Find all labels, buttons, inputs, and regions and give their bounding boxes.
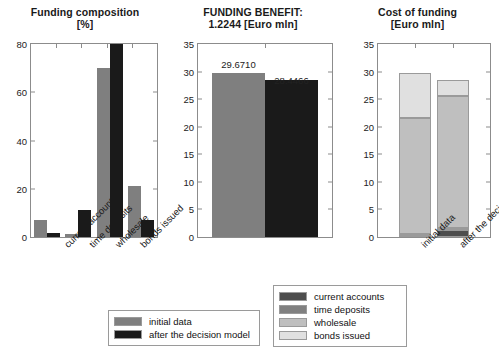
- bar-value-label: 28.4466: [274, 75, 308, 86]
- stack-segment-bonds-issued: [437, 80, 469, 96]
- chart-funding-benefit: FUNDING BENEFIT: 1.2244 [Euro mln] 05101…: [168, 0, 338, 300]
- chart3-title-block: Cost of funding [Euro mln]: [336, 6, 499, 30]
- chart1-title: Funding composition: [0, 6, 170, 18]
- y-tick-mark: [153, 92, 157, 93]
- legend-component-item-label: current accounts: [314, 291, 384, 302]
- y-tick-mark: [198, 126, 202, 127]
- chart1-title-block: Funding composition [%]: [0, 6, 170, 30]
- x-axis-label: current accounts: [62, 242, 70, 250]
- chart2-title-block: FUNDING BENEFIT: 1.2244 [Euro mln]: [168, 6, 338, 30]
- bar-value-label: 29.6710: [221, 59, 255, 70]
- y-tick-label: 80: [16, 39, 31, 50]
- chart2-subtitle: 1.2244 [Euro mln]: [168, 18, 338, 30]
- chart3-title: Cost of funding: [336, 6, 499, 18]
- y-tick-mark: [378, 99, 382, 100]
- y-tick-label: 10: [183, 176, 198, 187]
- x-tick-mark: [265, 44, 266, 48]
- y-tick-mark: [198, 181, 202, 182]
- y-tick-mark: [378, 154, 382, 155]
- y-tick-mark: [328, 209, 332, 210]
- y-tick-label: 15: [363, 149, 378, 160]
- y-tick-label: 60: [16, 87, 31, 98]
- chart2-plot-area: 0510152025303529.671028.4466: [197, 43, 333, 238]
- bar-after-decision-model: [265, 80, 318, 237]
- y-tick-mark: [378, 209, 382, 210]
- legend-component-item-swatch: [279, 318, 307, 327]
- y-tick-mark: [378, 71, 382, 72]
- legend-component-item-label: bonds issued: [314, 330, 370, 341]
- x-tick-mark: [132, 44, 133, 48]
- y-tick-label: 5: [189, 204, 198, 215]
- y-tick-mark: [486, 181, 490, 182]
- y-tick-mark: [153, 188, 157, 189]
- stack-segment-wholesale: [437, 96, 469, 228]
- y-tick-mark: [198, 209, 202, 210]
- legend-component-item-row: time deposits: [279, 303, 400, 316]
- y-tick-mark: [328, 154, 332, 155]
- y-tick-label: 25: [363, 94, 378, 105]
- y-tick-label: 15: [183, 149, 198, 160]
- legend-series: initial dataafter the decision model: [108, 310, 260, 346]
- y-tick-label: 0: [22, 232, 31, 243]
- legend-series-item-swatch: [114, 317, 142, 326]
- y-tick-label: 30: [183, 66, 198, 77]
- x-tick-mark: [81, 44, 82, 48]
- y-tick-label: 25: [183, 94, 198, 105]
- y-tick-mark: [328, 181, 332, 182]
- x-tick-mark: [56, 44, 57, 48]
- x-axis-label: time deposits: [87, 242, 95, 250]
- y-tick-mark: [31, 140, 35, 141]
- y-tick-label: 0: [369, 232, 378, 243]
- y-tick-mark: [486, 126, 490, 127]
- chart3-plot-area: 05101520253035initial dataafter the deci…: [377, 43, 491, 238]
- y-tick-label: 35: [183, 39, 198, 50]
- bar-current-accounts-initial: [34, 220, 47, 237]
- x-tick-mark: [453, 44, 454, 48]
- y-tick-mark: [31, 188, 35, 189]
- chart-funding-composition: Funding composition [%] 020406080current…: [0, 0, 170, 300]
- y-tick-label: 20: [16, 183, 31, 194]
- x-axis-label: wholesale: [113, 242, 121, 250]
- legend-series-item-label: initial data: [149, 316, 192, 327]
- x-axis-label: after the decision model: [457, 242, 465, 250]
- bar-initial-data: [212, 73, 265, 237]
- legend-component-item-swatch: [279, 305, 307, 314]
- legend-component-item-swatch: [279, 292, 307, 301]
- y-tick-mark: [198, 99, 202, 100]
- x-axis-label: bonds issued: [138, 242, 146, 250]
- y-tick-mark: [378, 181, 382, 182]
- legend-component-item-row: current accounts: [279, 290, 400, 303]
- y-tick-label: 30: [363, 66, 378, 77]
- legend-series-item-swatch: [114, 330, 142, 339]
- y-tick-label: 10: [363, 176, 378, 187]
- y-tick-mark: [328, 71, 332, 72]
- y-tick-label: 0: [189, 232, 198, 243]
- legend-component-item-row: wholesale: [279, 316, 400, 329]
- y-tick-label: 40: [16, 135, 31, 146]
- legend-component-item-label: wholesale: [314, 317, 356, 328]
- y-tick-mark: [486, 71, 490, 72]
- x-axis-label: initial data: [419, 242, 427, 250]
- y-tick-mark: [31, 92, 35, 93]
- chart1-plot-area: 020406080current accountstime depositswh…: [30, 43, 158, 238]
- y-tick-mark: [378, 126, 382, 127]
- y-tick-mark: [486, 154, 490, 155]
- legend-components: current accountstime depositswholesalebo…: [273, 285, 407, 347]
- x-tick-mark: [107, 44, 108, 48]
- stack-segment-wholesale: [399, 118, 431, 234]
- legend-component-item-row: bonds issued: [279, 329, 400, 342]
- bar-current-accounts-after: [47, 233, 60, 237]
- legend-series-item-label: after the decision model: [149, 329, 250, 340]
- y-tick-label: 35: [363, 39, 378, 50]
- x-tick-mark: [415, 44, 416, 48]
- legend-series-item-row: after the decision model: [114, 328, 253, 341]
- y-tick-label: 5: [369, 204, 378, 215]
- y-tick-mark: [153, 140, 157, 141]
- y-tick-mark: [328, 126, 332, 127]
- chart3-subtitle: [Euro mln]: [336, 18, 499, 30]
- legend-component-item-swatch: [279, 331, 307, 340]
- y-tick-mark: [198, 154, 202, 155]
- y-tick-mark: [486, 99, 490, 100]
- chart-cost-of-funding: Cost of funding [Euro mln] 0510152025303…: [336, 0, 499, 300]
- chart2-title: FUNDING BENEFIT:: [168, 6, 338, 18]
